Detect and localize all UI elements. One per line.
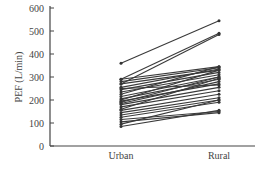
data-point bbox=[218, 80, 221, 83]
y-tick-label: 500 bbox=[29, 26, 44, 37]
x-axis: UrbanRural bbox=[50, 146, 255, 161]
x-category-label: Rural bbox=[208, 150, 230, 161]
y-tick-label: 600 bbox=[29, 3, 44, 14]
y-tick-label: 200 bbox=[29, 95, 44, 106]
data-point bbox=[218, 65, 221, 68]
data-point bbox=[120, 87, 123, 90]
y-axis: 0100200300400500600 bbox=[29, 3, 54, 152]
data-point bbox=[218, 89, 221, 92]
data-point bbox=[120, 101, 123, 104]
data-point bbox=[218, 84, 221, 87]
data-point bbox=[218, 76, 221, 79]
pef-paired-line-chart: 0100200300400500600 UrbanRural PEF (L/mi… bbox=[0, 0, 259, 172]
y-tick-label: 300 bbox=[29, 72, 44, 83]
x-category-label: Urban bbox=[109, 150, 134, 161]
y-tick-label: 0 bbox=[39, 141, 44, 152]
data-point bbox=[218, 33, 221, 36]
data-point bbox=[218, 69, 221, 72]
data-point bbox=[120, 125, 123, 128]
data-point bbox=[218, 99, 221, 102]
data-lines bbox=[120, 19, 221, 128]
data-point bbox=[218, 93, 221, 96]
data-point bbox=[120, 82, 123, 85]
data-point bbox=[218, 19, 221, 22]
y-axis-label: PEF (L/min) bbox=[13, 52, 25, 103]
data-point bbox=[218, 109, 221, 112]
y-tick-label: 100 bbox=[29, 118, 44, 129]
y-tick-label: 400 bbox=[29, 49, 44, 60]
data-point bbox=[120, 62, 123, 65]
